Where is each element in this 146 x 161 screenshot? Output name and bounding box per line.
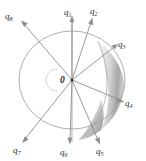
vector-label-q6: q6 (60, 147, 68, 158)
vector-label-q7: q7 (13, 145, 22, 156)
vector-diagram-figure: 0 q1 q2 q3 q4 q5 q6 q7 (0, 0, 146, 161)
vector-label-q8: q8 (5, 11, 13, 22)
vector-ray-q1 (70, 15, 75, 80)
origin-label: 0 (60, 75, 65, 85)
vector-label-q3: q3 (118, 39, 126, 50)
vector-label-q5: q5 (96, 146, 104, 157)
angle-arc-icon (46, 69, 57, 91)
vector-ray-q2 (72, 18, 93, 81)
vector-label-q4: q4 (125, 98, 133, 109)
vector-label-q1: q1 (64, 7, 72, 18)
vector-ray-q8 (21, 21, 72, 81)
shaded-crescent-region (79, 41, 124, 140)
vector-ray-q7 (22, 80, 72, 143)
origin-point (70, 78, 73, 81)
vector-diagram-canvas: 0 q1 q2 q3 q4 q5 q6 q7 (0, 0, 146, 161)
vector-label-q2: q2 (90, 6, 98, 17)
